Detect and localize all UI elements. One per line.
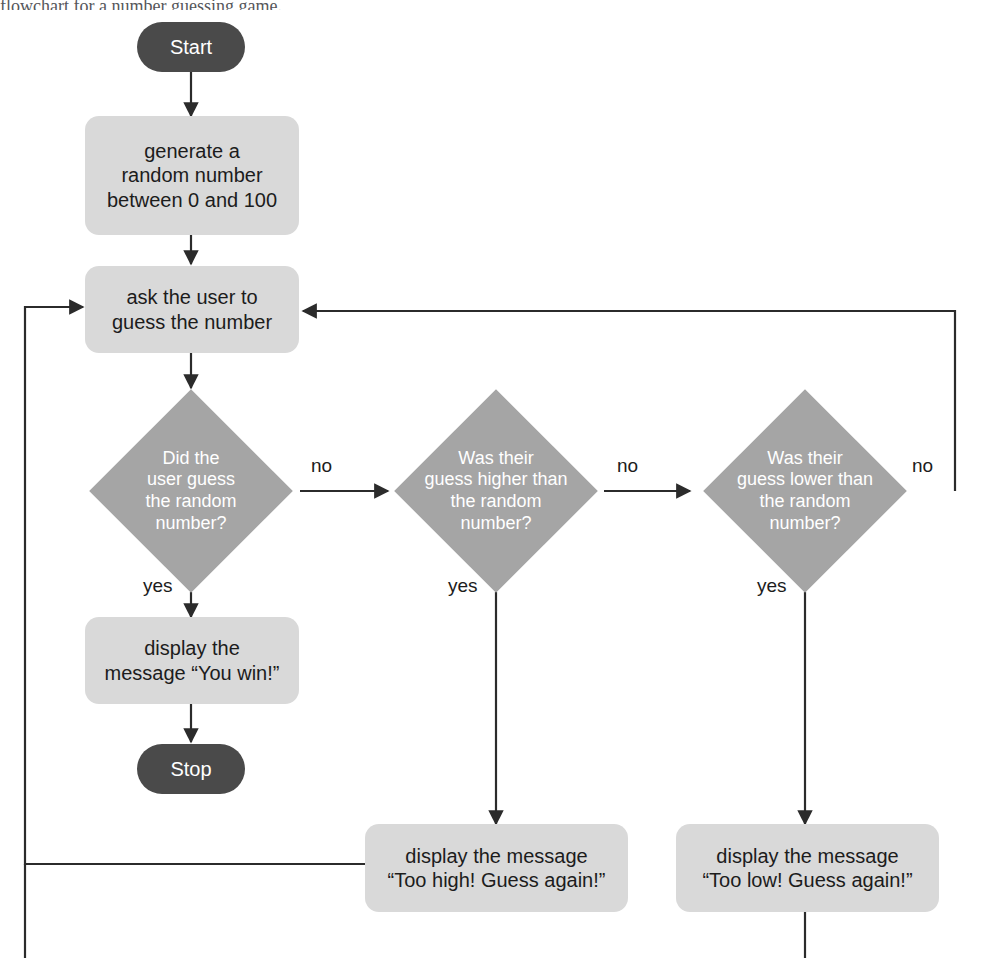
node-ask-user-label: ask the user to guess the number [112, 285, 272, 334]
edge-label-correct-no: no [311, 455, 332, 477]
node-stop-label: Stop [170, 757, 211, 781]
node-ask-user: ask the user to guess the number [85, 266, 299, 353]
node-start: Start [137, 22, 245, 72]
edge-label-lower-no: no [912, 455, 933, 477]
node-decision-guess-correct-label: Did the user guess the random number? [119, 448, 263, 534]
edge-label-higher-yes: yes [448, 575, 478, 597]
node-display-too-low: display the message “Too low! Guess agai… [676, 824, 939, 912]
node-decision-guess-higher: Was their guess higher than the random n… [424, 419, 568, 563]
node-start-label: Start [170, 35, 212, 59]
node-display-too-high: display the message “Too high! Guess aga… [365, 824, 628, 912]
node-decision-guess-lower-label: Was their guess lower than the random nu… [733, 448, 877, 534]
node-stop: Stop [137, 744, 245, 794]
node-display-you-win: display the message “You win!” [85, 617, 299, 704]
edge-label-correct-yes: yes [143, 575, 173, 597]
node-generate-random: generate a random number between 0 and 1… [85, 116, 299, 235]
node-decision-guess-correct: Did the user guess the random number? [119, 419, 263, 563]
edge-label-higher-no: no [617, 455, 638, 477]
node-generate-random-label: generate a random number between 0 and 1… [107, 139, 277, 212]
node-decision-guess-lower: Was their guess lower than the random nu… [733, 419, 877, 563]
node-decision-guess-higher-label: Was their guess higher than the random n… [424, 448, 568, 534]
node-display-you-win-label: display the message “You win!” [105, 636, 280, 685]
edge-label-lower-yes: yes [757, 575, 787, 597]
flowchart-canvas: flowchart for a number guessing game. St… [0, 0, 983, 958]
node-display-too-high-label: display the message “Too high! Guess aga… [388, 844, 606, 893]
node-display-too-low-label: display the message “Too low! Guess agai… [702, 844, 912, 893]
